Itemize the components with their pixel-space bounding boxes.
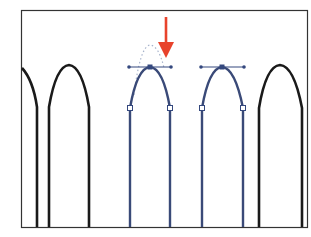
anchor-point[interactable] xyxy=(168,106,173,111)
anchor-point[interactable] xyxy=(241,106,246,111)
handle-point[interactable] xyxy=(169,65,173,69)
anchor-point-selected[interactable] xyxy=(148,65,153,70)
handle-point[interactable] xyxy=(199,65,203,69)
anchor-point[interactable] xyxy=(128,106,133,111)
handle-point[interactable] xyxy=(242,65,246,69)
pen-tool-illustration xyxy=(0,0,311,237)
anchor-point[interactable] xyxy=(200,106,205,111)
anchor-point-selected[interactable] xyxy=(220,65,225,70)
handle-point[interactable] xyxy=(127,65,131,69)
